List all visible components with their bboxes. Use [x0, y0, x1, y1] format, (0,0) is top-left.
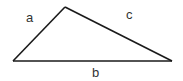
side-b-label: b	[92, 66, 99, 79]
side-c-line	[65, 7, 172, 61]
side-c-label: c	[126, 8, 133, 21]
side-a-label: a	[26, 11, 33, 24]
side-a-line	[13, 7, 65, 61]
triangle-diagram: a c b	[0, 0, 183, 81]
